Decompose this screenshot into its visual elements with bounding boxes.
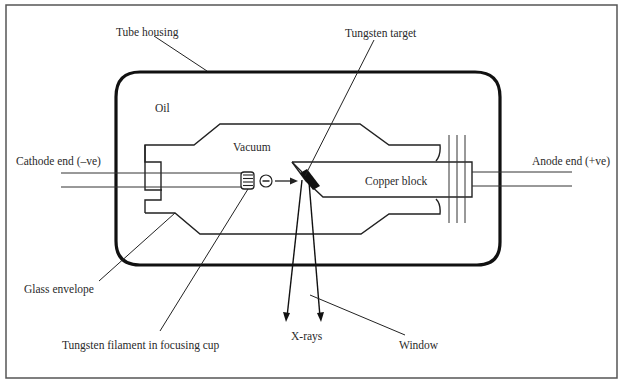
label-x-rays: X-rays (291, 330, 323, 343)
label-cathode-end: Cathode end (–ve) (16, 155, 101, 168)
x-ray-tube-diagram: Tube housing Tungsten target Oil Vacuum … (0, 0, 629, 383)
target-face (292, 162, 302, 172)
x-rays-arrows-icon (283, 180, 324, 322)
electron-beam-arrow-icon (275, 178, 298, 185)
label-window: Window (399, 339, 439, 351)
cooling-fins (449, 135, 465, 223)
label-tube-housing: Tube housing (116, 26, 179, 39)
cathode-leads (61, 173, 243, 187)
glass-envelope-bottom (145, 199, 440, 234)
label-glass-envelope: Glass envelope (24, 283, 94, 296)
filament-icon (241, 172, 254, 189)
glass-envelope-cathode-stem (145, 145, 161, 213)
label-vacuum: Vacuum (233, 141, 271, 153)
anode-leads (472, 172, 572, 186)
electron-icon (260, 175, 272, 187)
glass-envelope (145, 145, 441, 234)
label-anode-end: Anode end (+ve) (532, 155, 610, 168)
label-copper-block: Copper block (365, 175, 428, 188)
tube-housing-outline (116, 72, 500, 265)
label-oil: Oil (155, 102, 170, 114)
label-tungsten-target: Tungsten target (345, 27, 417, 40)
label-tungsten-filament: Tungsten filament in focusing cup (62, 339, 220, 352)
figure-frame (6, 5, 617, 378)
